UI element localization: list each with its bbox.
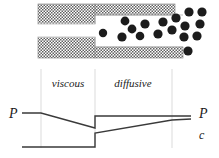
- concentration-curve: [22, 119, 191, 147]
- slit-outline: [38, 24, 95, 37]
- particle: [167, 25, 176, 34]
- particle: [136, 32, 145, 41]
- particle: [158, 17, 167, 26]
- particle: [99, 29, 107, 37]
- particle: [184, 7, 193, 16]
- pressure-label-left: P: [8, 106, 18, 121]
- pressure-label-right: P: [198, 106, 208, 121]
- lower-wall-thick-block: [38, 37, 95, 58]
- particle: [153, 29, 162, 38]
- figure-svg: viscous diffusive P P c: [0, 0, 219, 158]
- particle: [179, 32, 188, 41]
- upper-wall-thick-block: [38, 4, 95, 24]
- particle: [183, 46, 192, 55]
- region-label-diffusive: diffusive: [114, 77, 151, 89]
- particle: [180, 21, 189, 30]
- upper-wall-thin-block: [95, 4, 175, 15]
- particle: [195, 19, 204, 28]
- region-label-viscous: viscous: [52, 77, 84, 89]
- figure-container: viscous diffusive P P c: [0, 0, 219, 158]
- particle: [117, 32, 126, 41]
- particle: [140, 19, 149, 28]
- particle: [192, 31, 201, 40]
- lower-wall-thin-block: [95, 47, 183, 58]
- particle: [197, 7, 206, 16]
- concentration-label-right: c: [199, 128, 205, 142]
- particle: [171, 13, 180, 22]
- plot-area: [22, 69, 191, 148]
- particle: [128, 25, 137, 34]
- particle: [121, 17, 130, 26]
